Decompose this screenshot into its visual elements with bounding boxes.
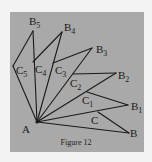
segment-b5-c5: [13, 31, 33, 66]
label-a: A: [22, 123, 30, 135]
label-c2: C2: [70, 77, 81, 92]
segment-a-b5: [33, 31, 37, 122]
label-b4: B4: [64, 21, 75, 36]
label-b1: B1: [131, 100, 142, 115]
label-c1: C1: [82, 94, 93, 109]
label-c: C: [91, 114, 98, 126]
label-c4: C4: [35, 63, 46, 78]
apex-point: [35, 120, 38, 123]
label-b2: B2: [118, 69, 129, 84]
label-b3: B3: [96, 43, 107, 58]
segment-b2-c2: [73, 73, 116, 74]
figure-caption: Figure 12: [0, 138, 152, 147]
label-b5: B5: [29, 15, 40, 30]
label-c3: C3: [55, 64, 66, 79]
